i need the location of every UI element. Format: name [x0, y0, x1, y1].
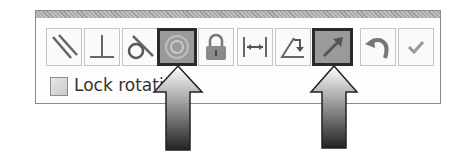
- distance-icon: [240, 32, 270, 62]
- perpendicular-icon: [87, 32, 117, 62]
- undo-button[interactable]: [360, 28, 396, 66]
- lock-rotation-label: Lock rotati: [74, 75, 164, 95]
- angle-button[interactable]: [275, 28, 311, 66]
- angle-icon: [278, 32, 308, 62]
- ok-button[interactable]: [398, 28, 434, 66]
- concentric-button[interactable]: [157, 28, 197, 66]
- checkmark-icon: [401, 32, 431, 62]
- parallel-icon: [49, 32, 79, 62]
- tangent-button[interactable]: [122, 28, 158, 66]
- callout-arrow-concentric: [152, 64, 204, 154]
- lock-icon: [201, 32, 231, 62]
- concentric-icon: [162, 32, 192, 62]
- perpendicular-button[interactable]: [84, 28, 120, 66]
- callout-arrow-flip: [309, 64, 359, 152]
- mate-toolbar-panel: Lock rotati: [35, 10, 441, 104]
- parallel-button[interactable]: [46, 28, 82, 66]
- panel-title-bar: [36, 11, 440, 18]
- undo-icon: [363, 32, 393, 62]
- lock-rotation-checkbox[interactable]: [50, 77, 68, 96]
- tangent-icon: [125, 32, 155, 62]
- arrow-icon: [318, 32, 348, 62]
- distance-button[interactable]: [237, 28, 273, 66]
- lock-button[interactable]: [198, 28, 234, 66]
- flip-direction-button[interactable]: [312, 28, 353, 66]
